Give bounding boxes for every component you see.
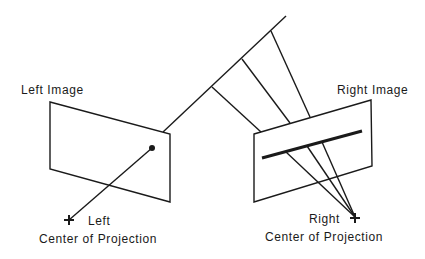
left-projection-ray xyxy=(69,148,152,220)
right-image-plane xyxy=(254,100,372,202)
right-image-label: Right Image xyxy=(337,83,408,97)
left-cop-label-line1: Left xyxy=(88,214,110,228)
left-cop-label-line2: Center of Projection xyxy=(39,232,157,246)
projection-ray-1 xyxy=(286,152,355,217)
diagram-svg: Left Image Right Image Left Center of Pr… xyxy=(0,0,425,259)
scene-ray-3 xyxy=(271,31,310,117)
left-image-label: Left Image xyxy=(21,83,84,97)
right-cop-label-line1: Right xyxy=(309,212,340,226)
left-image-point xyxy=(149,145,155,151)
projection-ray-2 xyxy=(307,146,355,217)
scene-ray-1 xyxy=(212,87,261,132)
left-image-plane xyxy=(50,102,170,202)
right-cop-label-line2: Center of Projection xyxy=(265,230,383,244)
scene-ray-2 xyxy=(242,59,290,123)
stereo-projection-diagram: Left Image Right Image Left Center of Pr… xyxy=(0,0,425,259)
scene-line xyxy=(163,16,286,132)
